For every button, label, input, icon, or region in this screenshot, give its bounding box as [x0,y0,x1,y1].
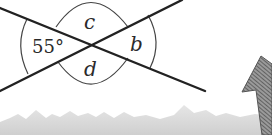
diagram-canvas: 55° c b d [0,0,272,135]
angle-label-d: d [84,57,97,81]
angle-diagram: 55° c b d [0,0,272,135]
ground-strip [0,105,272,135]
angle-label-55: 55° [32,36,64,57]
line-1 [0,8,205,91]
angle-label-c: c [84,10,95,34]
angle-label-b: b [130,32,143,56]
intersecting-lines [0,0,205,91]
